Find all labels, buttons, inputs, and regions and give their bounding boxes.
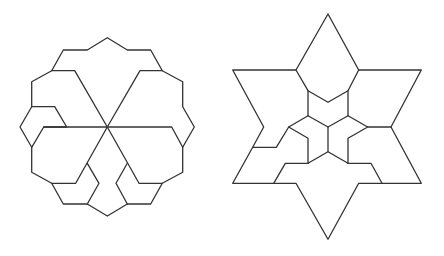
figure-dodecagon-dissection <box>20 38 194 216</box>
diagram-canvas <box>0 0 444 256</box>
hexagram-dissection-inner-edge <box>308 91 348 127</box>
hexagram-dissection-inner-edge <box>274 163 308 183</box>
geometric-dissection-figures <box>0 0 444 256</box>
figure-hexagram-dissection <box>233 14 422 239</box>
hexagram-dissection-inner-edge <box>296 70 359 102</box>
dodecagon-dissection-inner-edge <box>107 127 162 183</box>
dodecagon-dissection-inner-edge <box>52 71 163 127</box>
dodecagon-dissection-inner-edge <box>87 163 99 204</box>
dodecagon-dissection-inner-edge <box>52 127 108 183</box>
dodecagon-dissection-inner-edge <box>116 163 127 204</box>
hexagram-dissection-inner-edge <box>348 163 382 183</box>
